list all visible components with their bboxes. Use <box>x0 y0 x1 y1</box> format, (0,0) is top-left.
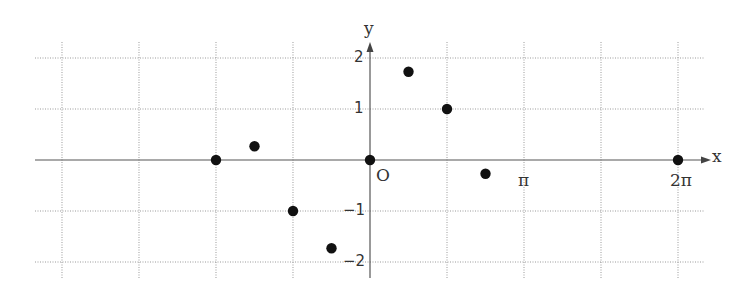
y-tick-label-neg1: −1 <box>343 203 365 218</box>
data-point <box>442 104 452 114</box>
data-point <box>403 67 413 77</box>
data-point <box>249 141 259 151</box>
data-point <box>480 169 490 179</box>
origin-label: O <box>376 167 390 184</box>
x-axis-arrow-icon <box>701 157 711 164</box>
y-tick-label-neg2: −2 <box>343 254 365 269</box>
y-tick-label-1: 1 <box>354 101 364 116</box>
data-point <box>365 155 375 165</box>
scatter-plot <box>0 0 748 294</box>
data-point <box>211 155 221 165</box>
y-tick-label-2: 2 <box>354 50 364 65</box>
x-tick-label-2pi: 2π <box>670 172 692 189</box>
data-point <box>326 243 336 253</box>
y-axis-arrow-icon <box>367 42 374 52</box>
data-point <box>673 155 683 165</box>
x-axis-label: x <box>712 148 722 165</box>
y-axis-label: y <box>364 20 374 37</box>
x-tick-label-pi: π <box>518 172 529 189</box>
data-point <box>288 206 298 216</box>
